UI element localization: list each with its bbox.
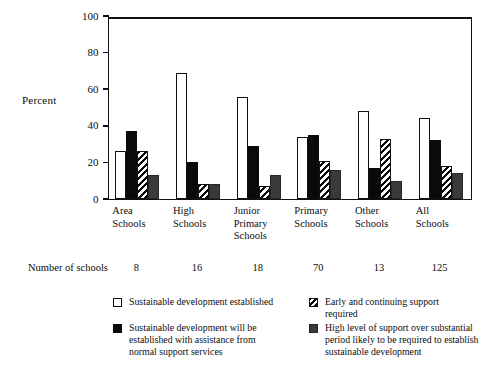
- bar-gray: [148, 175, 159, 199]
- number-of-schools-row: Number of schools 816187013125: [0, 262, 492, 278]
- bar-white: [115, 151, 126, 199]
- bar-hatch: [137, 151, 148, 199]
- y-tick-label: 100: [82, 11, 105, 22]
- legend-swatch-white-icon: [113, 298, 122, 307]
- x-label-2: Junior Primary Schools: [234, 205, 268, 243]
- x-label-1: High Schools: [173, 205, 206, 230]
- bar-gray: [391, 181, 402, 199]
- legend-label: High level of support over substantial p…: [325, 322, 478, 359]
- x-label-5: All Schools: [416, 205, 449, 230]
- bar-black: [187, 162, 198, 199]
- bar-white: [297, 137, 308, 199]
- legend-row-top: Sustainable development establishedEarly…: [113, 296, 483, 322]
- bar-gray: [452, 173, 463, 199]
- bar-white: [176, 73, 187, 199]
- y-tick-mark: [103, 15, 109, 17]
- bar-white: [358, 111, 369, 199]
- legend-label: Sustainable development established: [129, 296, 273, 308]
- bar-hatch: [198, 184, 209, 199]
- y-tick-label: 80: [88, 47, 105, 58]
- bar-gray: [209, 184, 220, 199]
- bar-black: [369, 168, 380, 199]
- bar-group: [176, 19, 220, 199]
- legend-swatch-black-icon: [113, 324, 122, 333]
- schools-count-3: 70: [308, 262, 328, 273]
- bar-black: [126, 131, 137, 199]
- legend-item-black: Sustainable development will be establis…: [113, 322, 301, 359]
- bar-group: [115, 19, 159, 199]
- bar-group: [237, 19, 281, 199]
- bar-black: [248, 146, 259, 199]
- legend-row-bottom: Sustainable development will be establis…: [113, 322, 483, 368]
- y-tick-label: 20: [88, 157, 105, 168]
- legend-swatch-hatch-icon: [309, 298, 318, 307]
- schools-count-0: 8: [126, 262, 146, 273]
- x-label-0: Area Schools: [112, 205, 145, 230]
- bar-group: [297, 19, 341, 199]
- bar-gray: [270, 175, 281, 199]
- y-tick-label: 60: [88, 84, 105, 95]
- legend-item-hatch: Early and continuing support required: [309, 296, 492, 320]
- bar-white: [237, 97, 248, 199]
- bar-hatch: [380, 139, 391, 199]
- schools-count-5: 125: [430, 262, 450, 273]
- schools-count-1: 16: [187, 262, 207, 273]
- x-label-4: Other Schools: [355, 205, 388, 230]
- legend-label: Early and continuing support required: [325, 296, 439, 320]
- chart-legend: Sustainable development establishedEarly…: [113, 296, 483, 368]
- bars-layer: [109, 19, 471, 199]
- bar-group: [358, 19, 402, 199]
- number-of-schools-label: Number of schools: [28, 262, 108, 273]
- legend-swatch-gray-icon: [309, 324, 318, 333]
- bar-group: [419, 19, 463, 199]
- schools-count-4: 13: [369, 262, 389, 273]
- plot-area: 020406080100: [108, 17, 472, 200]
- x-axis-labels: Area SchoolsHigh SchoolsJunior Primary S…: [108, 205, 472, 253]
- bar-black: [430, 140, 441, 199]
- schools-count-2: 18: [248, 262, 268, 273]
- bar-chart-figure: Percent 020406080100 Area SchoolsHigh Sc…: [0, 0, 492, 384]
- y-tick-label: 40: [88, 120, 105, 131]
- legend-item-gray: High level of support over substantial p…: [309, 322, 492, 359]
- x-label-3: Primary Schools: [294, 205, 328, 230]
- y-axis-title: Percent: [22, 94, 56, 106]
- bar-white: [419, 118, 430, 199]
- legend-label: Sustainable development will be establis…: [129, 322, 257, 359]
- bar-gray: [330, 170, 341, 199]
- legend-item-white: Sustainable development established: [113, 296, 301, 308]
- bar-hatch: [441, 166, 452, 199]
- bar-black: [308, 135, 319, 199]
- bar-hatch: [259, 186, 270, 199]
- bar-hatch: [319, 161, 330, 199]
